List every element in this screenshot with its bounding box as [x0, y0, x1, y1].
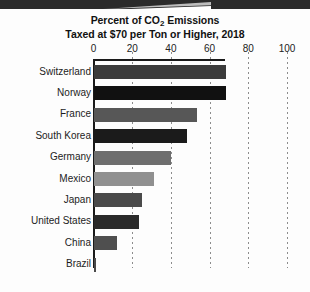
bar-row: Mexico [0, 170, 310, 191]
category-label: United States [31, 215, 91, 226]
bar [94, 108, 197, 122]
category-label: Switzerland [39, 66, 91, 77]
bar [94, 236, 117, 250]
category-label: Japan [64, 194, 91, 205]
bar-row: Germany [0, 148, 310, 169]
bar-row: South Korea [0, 127, 310, 148]
bar [94, 65, 226, 79]
category-label: South Korea [35, 130, 91, 141]
bar-row: France [0, 105, 310, 126]
bar [94, 258, 96, 272]
bar [94, 215, 139, 229]
category-label: Brazil [66, 258, 91, 269]
bar [94, 193, 142, 207]
category-label: China [65, 237, 91, 248]
bar-row: Japan [0, 191, 310, 212]
category-label: Norway [57, 87, 91, 98]
bar [94, 151, 171, 165]
plot-area: 020406080100 SwitzerlandNorwayFranceSout… [0, 0, 310, 292]
bar-row: Norway [0, 84, 310, 105]
bar [94, 172, 154, 186]
category-label: Mexico [59, 173, 91, 184]
bar-row: Brazil [0, 255, 310, 276]
bar-rows: SwitzerlandNorwayFranceSouth KoreaGerman… [0, 0, 310, 292]
category-label: France [60, 108, 91, 119]
bar-row: United States [0, 212, 310, 233]
bar [94, 86, 226, 100]
bar-row: Switzerland [0, 63, 310, 84]
bar-row: China [0, 234, 310, 255]
chart-page: Percent of CO2 Emissions Taxed at $70 pe… [0, 0, 310, 292]
bar [94, 129, 187, 143]
category-label: Germany [50, 151, 91, 162]
